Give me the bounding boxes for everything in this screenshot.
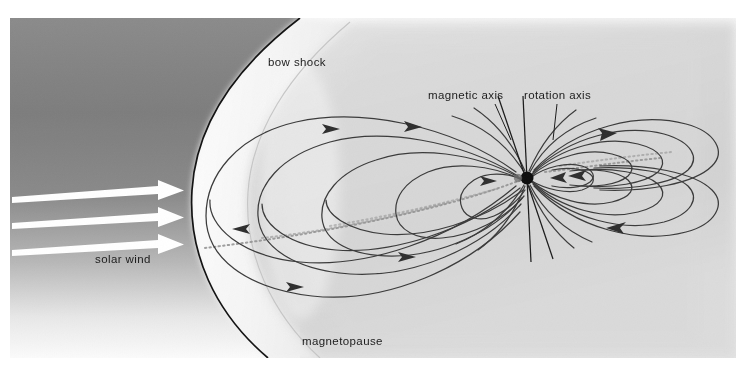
paper-grain [10, 18, 736, 358]
diagram-canvas: bow shock magnetic axis rotation axis so… [0, 0, 752, 385]
magnetosphere-diagram: bow shock magnetic axis rotation axis so… [0, 0, 752, 385]
